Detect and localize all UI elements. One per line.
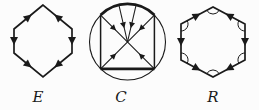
hexagon-outline <box>14 5 72 77</box>
edge-arrow-icon <box>10 37 18 45</box>
center-arrow-icon <box>129 22 135 29</box>
diagram-label-R: R <box>206 88 218 106</box>
hexagon-outline <box>181 7 245 77</box>
edge-arrow-icon <box>177 38 185 46</box>
diagram-hexagon-R <box>177 7 249 77</box>
vertex-angle-arc <box>207 10 219 14</box>
center-arrow-icon <box>120 22 126 29</box>
edge-arrow-icon <box>241 38 249 46</box>
diagram-hexagon-E <box>10 5 76 77</box>
bold-top-arc <box>101 4 155 15</box>
figure-canvas: E C R <box>0 0 259 110</box>
diagram-label-C: C <box>115 88 127 106</box>
diagram-circle-C <box>90 4 166 80</box>
edge-arrow-icon <box>68 37 76 45</box>
diagram-label-E: E <box>32 88 44 106</box>
vertex-angle-arc <box>207 70 219 74</box>
three-diagrams-figure: E C R <box>0 0 259 110</box>
